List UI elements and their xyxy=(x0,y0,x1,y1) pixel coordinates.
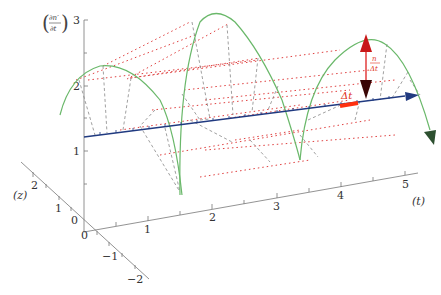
delta-t-label: Δt xyxy=(340,90,353,101)
z-tick-1: 1 xyxy=(55,202,62,215)
arch-arrowhead-icon xyxy=(424,130,436,145)
z-tick-0: 0 xyxy=(71,214,78,227)
svg-text:n: n xyxy=(372,55,377,63)
t-axis xyxy=(84,171,418,232)
t-tick-4: 4 xyxy=(337,189,344,202)
svg-text:∂t: ∂t xyxy=(50,25,57,33)
svg-text:): ) xyxy=(61,11,69,35)
t-tick-5: 5 xyxy=(402,178,409,191)
t-tick-1: 1 xyxy=(144,223,151,236)
y-tick-1: 1 xyxy=(73,145,80,158)
y-axis-label: ( ) ∂n′ ∂t xyxy=(42,11,69,35)
arch-curves xyxy=(60,14,430,196)
y-tick-2: 2 xyxy=(73,80,80,93)
time-arrow xyxy=(84,92,419,137)
t-tick-3: 3 xyxy=(273,200,280,213)
z-axis xyxy=(21,162,149,279)
t-axis-label: (t) xyxy=(412,195,425,208)
svg-text:Δt: Δt xyxy=(369,65,378,73)
plot-canvas: 3 2 1 ( ) ∂n′ ∂t 1 2 3 4 5 (t) xyxy=(0,0,441,295)
t-tick-2: 2 xyxy=(209,211,216,224)
y-tick-3: 3 xyxy=(73,14,80,27)
vertical-axis xyxy=(84,20,88,232)
z-tick-neg1: −1 xyxy=(102,250,118,263)
z-tick-2: 2 xyxy=(31,179,38,192)
ratio-label: n Δt xyxy=(369,55,380,73)
svg-text:∂n′: ∂n′ xyxy=(49,14,59,22)
origin-label: 0 xyxy=(81,229,88,242)
z-tick-neg2: −2 xyxy=(127,273,143,286)
z-axis-label: (z) xyxy=(13,189,27,202)
